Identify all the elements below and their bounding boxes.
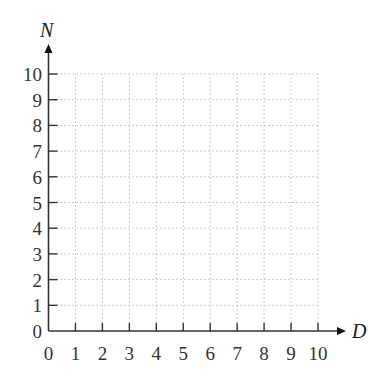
x-tick-label: 10 <box>309 343 328 364</box>
y-axis-ticks: 012345678910 <box>23 64 58 342</box>
x-tick-label: 4 <box>152 343 162 364</box>
y-tick-label: 10 <box>23 64 42 85</box>
y-axis-label: N <box>39 19 55 41</box>
x-tick-label: 3 <box>125 343 135 364</box>
x-tick-label: 2 <box>98 343 108 364</box>
x-tick-label: 9 <box>286 343 296 364</box>
y-tick-label: 2 <box>33 270 43 291</box>
y-axis-arrow-icon <box>45 44 53 53</box>
y-tick-label: 1 <box>33 295 43 316</box>
y-tick-label: 7 <box>33 141 43 162</box>
y-tick-label: 4 <box>33 218 43 239</box>
y-tick-label: 0 <box>33 321 43 342</box>
x-tick-label: 5 <box>179 343 189 364</box>
x-axis-label: D <box>351 320 367 342</box>
x-tick-label: 6 <box>205 343 215 364</box>
x-axis-ticks: 012345678910 <box>44 323 328 364</box>
x-tick-label: 7 <box>232 343 242 364</box>
y-tick-label: 9 <box>33 90 43 111</box>
axes <box>45 44 347 335</box>
x-tick-label: 0 <box>44 343 54 364</box>
x-tick-label: 8 <box>259 343 269 364</box>
x-tick-label: 1 <box>71 343 81 364</box>
y-tick-label: 5 <box>33 193 43 214</box>
x-axis-arrow-icon <box>337 327 346 335</box>
grid-lines <box>49 74 319 331</box>
y-tick-label: 6 <box>33 167 43 188</box>
empty-coordinate-grid: 012345678910 012345678910 D N <box>0 0 386 381</box>
y-tick-label: 8 <box>33 115 43 136</box>
y-tick-label: 3 <box>33 244 43 265</box>
